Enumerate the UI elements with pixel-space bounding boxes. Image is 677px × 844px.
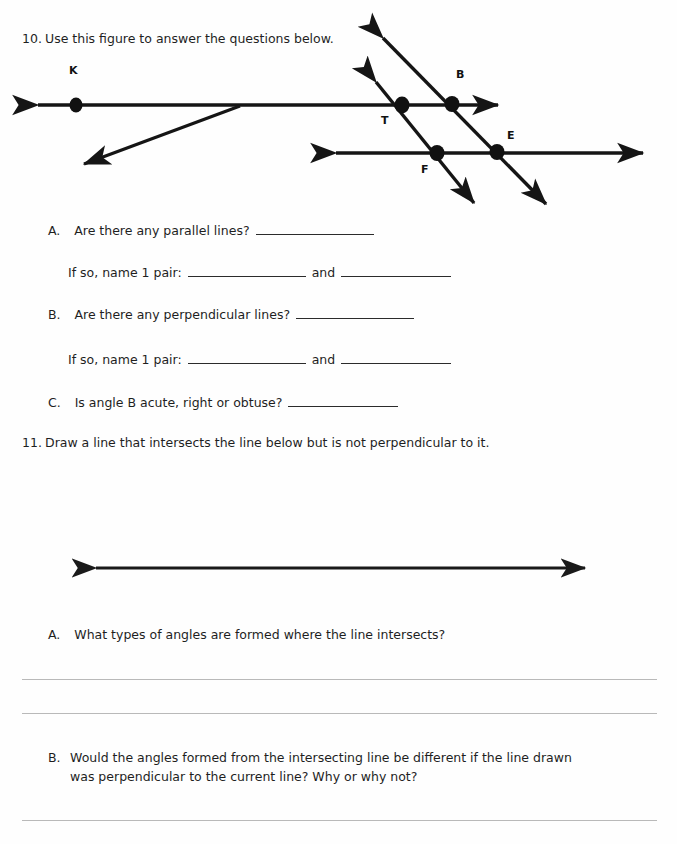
part-b-answer-blank[interactable]: [296, 306, 414, 319]
part-a-pair-blank-2[interactable]: [341, 264, 451, 277]
part-c-text: Is angle B acute, right or obtuse?: [75, 395, 283, 410]
point-label-e: E: [507, 129, 515, 142]
part-a-answer-blank[interactable]: [256, 222, 374, 235]
single-horizontal-line-figure: [0, 545, 677, 593]
q11-part-a-letter: A.: [48, 627, 60, 642]
point-k-dot: [70, 98, 83, 113]
part-b-conjunction: and: [312, 352, 336, 367]
question-11-part-a: A. What types of angles are formed where…: [48, 625, 445, 644]
part-a-pair-blank-1[interactable]: [188, 264, 306, 277]
answer-rule-3[interactable]: [22, 820, 657, 821]
question-10-part-c: C. Is angle B acute, right or obtuse?: [48, 393, 400, 412]
part-a-letter: A.: [48, 223, 60, 238]
slanted-ray-from-upper-line: [84, 106, 240, 164]
worksheet-page: 10. Use this figure to answer the questi…: [0, 0, 677, 844]
q11-part-a-text: What types of angles are formed where th…: [74, 627, 445, 642]
q11-part-b-line-2: was perpendicular to the current line? W…: [70, 767, 648, 786]
answer-rule-2[interactable]: [22, 713, 657, 714]
answer-rule-1[interactable]: [22, 679, 657, 680]
part-c-answer-blank[interactable]: [288, 394, 398, 407]
part-b-letter: B.: [48, 307, 61, 322]
question-10-part-b: B. Are there any perpendicular lines?: [48, 305, 416, 324]
question-10-prompt: Use this figure to answer the questions …: [45, 30, 334, 47]
point-b-dot: [445, 96, 460, 112]
point-label-k: K: [69, 64, 78, 77]
part-b-pair-blank-1[interactable]: [188, 351, 306, 364]
right-transversal: [383, 38, 546, 204]
point-f-dot: [430, 145, 445, 161]
question-11-number: 11.: [22, 434, 42, 451]
point-label-f: F: [421, 163, 429, 176]
q11-part-b-line-1: Would the angles formed from the interse…: [70, 748, 648, 767]
question-11-prompt: Draw a line that intersects the line bel…: [45, 434, 489, 451]
point-label-t: T: [381, 114, 389, 127]
question-11-part-b: B. Would the angles formed from the inte…: [48, 748, 648, 786]
left-transversal: [376, 82, 474, 203]
question-10-part-a: A. Are there any parallel lines?: [48, 221, 376, 240]
question-10-number: 10.: [22, 30, 42, 47]
q11-part-b-letter: B.: [48, 748, 61, 767]
part-c-letter: C.: [48, 395, 61, 410]
part-a-conjunction: and: [312, 265, 336, 280]
part-b-followup-text: If so, name 1 pair:: [68, 352, 182, 367]
part-b-pair-blank-2[interactable]: [341, 351, 451, 364]
part-a-text: Are there any parallel lines?: [74, 223, 249, 238]
part-a-followup-text: If so, name 1 pair:: [68, 265, 182, 280]
point-e-dot: [490, 144, 505, 160]
part-b-text: Are there any perpendicular lines?: [75, 307, 291, 322]
point-label-b: B: [456, 68, 464, 81]
point-t-dot: [395, 97, 410, 114]
question-10-part-b-followup: If so, name 1 pair: and: [68, 350, 453, 369]
question-10-part-a-followup: If so, name 1 pair: and: [68, 263, 453, 282]
